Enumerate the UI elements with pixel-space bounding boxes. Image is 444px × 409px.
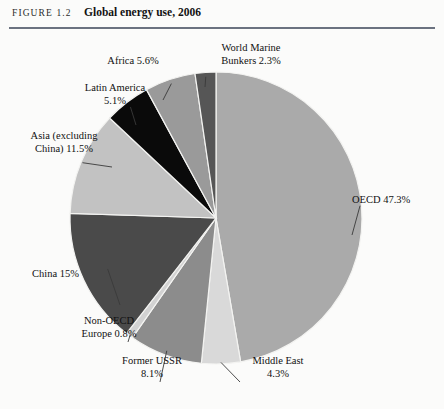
figure-header: FIGURE 1.2 Global energy use, 2006 [0, 0, 444, 30]
figure-number: FIGURE 1.2 [12, 8, 72, 18]
header-divider [9, 27, 435, 29]
slice-label-latin-america: Latin America 5.1% [60, 82, 170, 107]
pie-chart-area: World Marine Bunkers 2.3% Africa 5.6% La… [0, 30, 444, 409]
slice-label-oecd: OECD 47.3% [352, 194, 444, 207]
slice-label-china: China 15% [32, 268, 128, 281]
slice-label-africa: Africa 5.6% [78, 55, 188, 68]
slice-label-asia-excluding-china: Asia (excluding China) 11.5% [8, 130, 120, 155]
slice-label-world-marine-bunkers: World Marine Bunkers 2.3% [196, 42, 306, 67]
slice-label-former-ussr: Former USSR 8.1% [96, 355, 208, 380]
figure-container: FIGURE 1.2 Global energy use, 2006 World… [0, 0, 444, 409]
pie-slice [216, 72, 362, 362]
figure-title: Global energy use, 2006 [84, 6, 201, 18]
slice-label-middle-east: Middle East 4.3% [226, 355, 330, 380]
slice-label-non-oecd-europe: Non-OECD Europe 0.8% [56, 315, 162, 340]
